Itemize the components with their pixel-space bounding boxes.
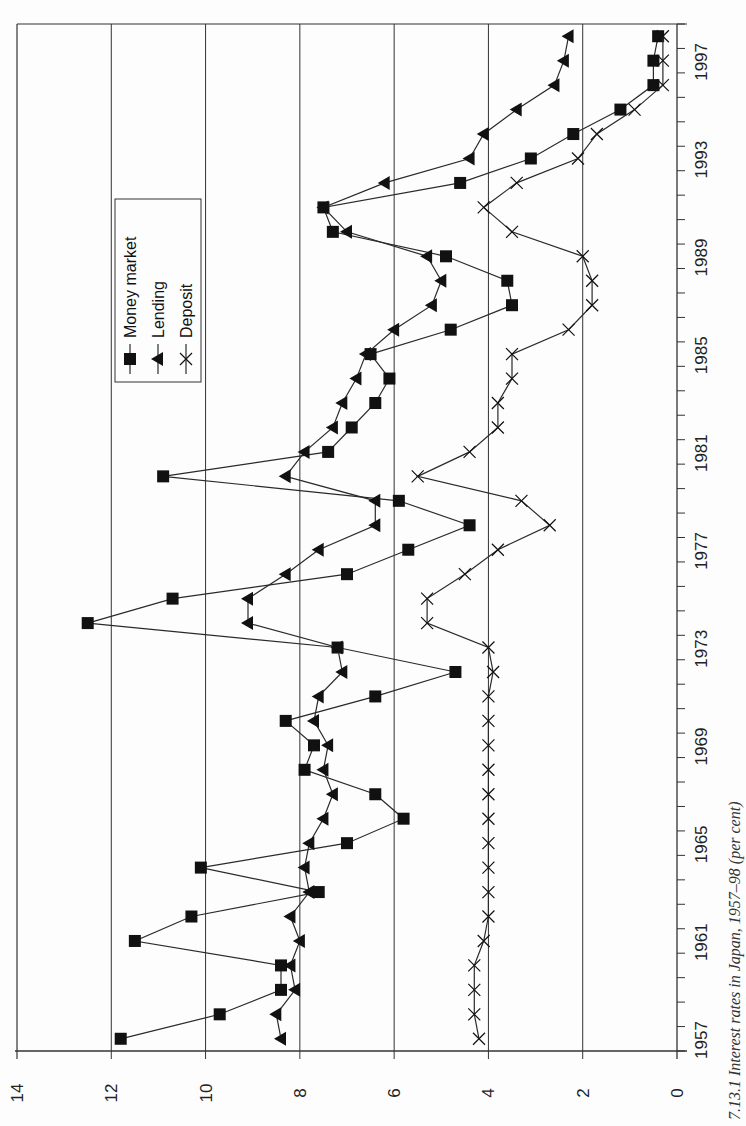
square-marker-icon (464, 519, 476, 531)
x-marker-icon (459, 568, 471, 580)
square-marker-icon (449, 666, 461, 678)
figure-caption: 7.13.1 Interest rates in Japan, 1957–98 … (726, 802, 744, 1120)
square-marker-icon (369, 690, 381, 702)
year-axis: 1957196119651969197319771981198519891993… (677, 24, 711, 1059)
legend-label: Money market (122, 236, 139, 338)
triangle-marker-icon (463, 151, 475, 165)
square-marker-icon (506, 299, 518, 311)
triangle-marker-icon (547, 78, 559, 92)
x-marker-icon (591, 128, 603, 140)
year-tick-label: 1965 (692, 825, 711, 863)
square-marker-icon (440, 250, 452, 262)
year-tick-label: 1981 (692, 434, 711, 472)
year-tick-label: 1977 (692, 532, 711, 570)
triangle-marker-icon (510, 103, 522, 117)
triangle-marker-icon (335, 396, 347, 410)
value-tick-label: 10 (197, 1084, 216, 1103)
x-marker-icon (487, 666, 499, 678)
square-marker-icon (454, 177, 466, 189)
interest-rate-chart: 02468101214 1957196119651969197319771981… (0, 0, 746, 1126)
triangle-marker-icon (378, 176, 390, 190)
year-tick-label: 1973 (692, 630, 711, 668)
triangle-marker-icon (557, 54, 569, 68)
square-marker-icon (214, 1008, 226, 1020)
value-tick-label: 0 (668, 1088, 687, 1097)
square-marker-icon (185, 911, 197, 923)
value-tick-label: 6 (385, 1088, 404, 1097)
square-marker-icon (341, 837, 353, 849)
square-marker-icon (647, 55, 659, 67)
square-marker-icon (402, 544, 414, 556)
year-tick-label: 1957 (692, 1021, 711, 1059)
triangle-marker-icon (307, 714, 319, 728)
value-tick-label: 2 (574, 1088, 593, 1097)
square-marker-icon (157, 470, 169, 482)
value-tick-label: 12 (102, 1084, 121, 1103)
x-marker-icon (478, 935, 490, 947)
triangle-marker-icon (477, 127, 489, 141)
x-marker-icon (563, 324, 575, 336)
square-marker-icon (393, 495, 405, 507)
gridlines (111, 24, 582, 1059)
triangle-marker-icon (326, 787, 338, 801)
square-marker-icon (341, 568, 353, 580)
series-line (88, 36, 658, 1039)
triangle-marker-icon (279, 567, 291, 581)
square-marker-icon (567, 128, 579, 140)
triangle-marker-icon (293, 934, 305, 948)
square-marker-icon (614, 104, 626, 116)
triangle-marker-icon (425, 298, 437, 312)
year-tick-label: 1961 (692, 923, 711, 961)
x-marker-icon (629, 104, 641, 116)
triangle-marker-icon (368, 518, 380, 532)
square-marker-icon (280, 715, 292, 727)
value-tick-label: 8 (291, 1088, 310, 1097)
triangle-marker-icon (316, 812, 328, 826)
square-marker-icon (398, 813, 410, 825)
square-marker-icon (501, 275, 513, 287)
triangle-marker-icon (269, 1007, 281, 1021)
plot-area (17, 24, 687, 1059)
legend-label: Deposit (178, 283, 195, 338)
x-marker-icon (511, 177, 523, 189)
triangle-marker-icon (368, 494, 380, 508)
legend-label: Lending (150, 281, 167, 338)
square-marker-icon (369, 397, 381, 409)
x-marker-icon (478, 201, 490, 213)
year-tick-label: 1997 (692, 43, 711, 81)
value-tick-label: 4 (479, 1088, 498, 1097)
triangle-marker-icon (349, 372, 361, 386)
square-marker-icon (82, 617, 94, 629)
square-marker-icon (299, 764, 311, 776)
value-tick-label: 14 (8, 1084, 27, 1103)
triangle-marker-icon (279, 469, 291, 483)
square-marker-icon (275, 984, 287, 996)
year-tick-label: 1993 (692, 141, 711, 179)
square-marker-icon (369, 788, 381, 800)
x-marker-icon (412, 470, 424, 482)
square-marker-icon (308, 739, 320, 751)
square-marker-icon (383, 373, 395, 385)
series-layer (82, 29, 669, 1046)
square-marker-icon (327, 226, 339, 238)
square-marker-icon (322, 446, 334, 458)
caption-text: 7.13.1 Interest rates in Japan, 1957–98 … (726, 802, 744, 1120)
square-marker-icon (167, 593, 179, 605)
square-marker-icon (346, 421, 358, 433)
triangle-marker-icon (241, 592, 253, 606)
x-marker-icon (572, 152, 584, 164)
square-marker-icon (525, 152, 537, 164)
x-marker-icon (515, 495, 527, 507)
x-marker-icon (492, 544, 504, 556)
square-marker-icon (445, 324, 457, 336)
triangle-marker-icon (241, 616, 253, 630)
x-marker-icon (473, 1033, 485, 1045)
series-money-market (82, 30, 664, 1045)
x-marker-icon (544, 519, 556, 531)
square-marker-icon (124, 353, 136, 365)
value-axis: 02468101214 (8, 24, 687, 1102)
square-marker-icon (313, 886, 325, 898)
year-tick-label: 1969 (692, 728, 711, 766)
triangle-marker-icon (312, 543, 324, 557)
year-tick-label: 1985 (692, 336, 711, 374)
